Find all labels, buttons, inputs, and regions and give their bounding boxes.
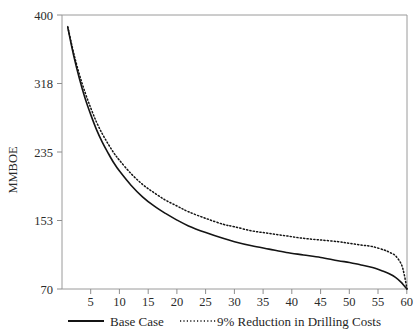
y-axis-title: MMBOE xyxy=(6,146,20,194)
x-tick-label-35: 35 xyxy=(257,295,270,309)
x-tick-label-50: 50 xyxy=(343,295,356,309)
chart-background xyxy=(0,0,419,336)
y-tick-label-153: 153 xyxy=(34,214,53,228)
y-tick-label-235: 235 xyxy=(34,146,53,160)
y-axis-title-group: MMBOE xyxy=(6,146,20,194)
x-tick-label-55: 55 xyxy=(372,295,385,309)
y-tick-label-318: 318 xyxy=(34,77,53,91)
x-tick-label-5: 5 xyxy=(88,295,94,309)
y-tick-label-70: 70 xyxy=(41,283,54,297)
legend-label-reduction: 9% Reduction in Drilling Costs xyxy=(217,314,381,329)
x-tick-label-15: 15 xyxy=(142,295,155,309)
x-tick-label-10: 10 xyxy=(113,295,126,309)
x-tick-label-30: 30 xyxy=(228,295,241,309)
x-tick-label-25: 25 xyxy=(199,295,212,309)
chart-figure: 70 153 235 318 400 MMBOE 5 10 15 20 xyxy=(0,0,419,336)
legend-label-base-case: Base Case xyxy=(110,314,164,329)
chart-legend: Base Case 9% Reduction in Drilling Costs xyxy=(68,314,381,329)
decline-curve-chart: 70 153 235 318 400 MMBOE 5 10 15 20 xyxy=(0,0,419,336)
y-tick-label-400: 400 xyxy=(34,9,53,23)
x-tick-label-20: 20 xyxy=(171,295,184,309)
x-tick-label-40: 40 xyxy=(286,295,299,309)
x-tick-label-45: 45 xyxy=(314,295,327,309)
x-tick-label-60: 60 xyxy=(401,295,414,309)
